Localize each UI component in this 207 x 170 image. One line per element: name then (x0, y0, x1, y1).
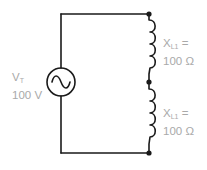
junction-dot-bottom (146, 150, 151, 155)
junction-dot-middle (146, 79, 151, 84)
junction-dot-top (146, 11, 151, 16)
inductor-2-value: 100 Ω (163, 124, 194, 139)
source-name: VT (12, 70, 42, 88)
inductor-2-name: XL1 = (163, 106, 194, 124)
inductor-1-coil (149, 14, 155, 82)
inductor-1-value: 100 Ω (163, 54, 194, 69)
inductor-1-label: XL1 = 100 Ω (163, 36, 194, 69)
sine-wave-icon (52, 76, 70, 88)
inductor-1-name: XL1 = (163, 36, 194, 54)
inductor-2-label: XL1 = 100 Ω (163, 106, 194, 139)
source-label: VT 100 V (12, 70, 42, 103)
source-value: 100 V (12, 88, 42, 103)
inductor-2-coil (149, 82, 155, 153)
